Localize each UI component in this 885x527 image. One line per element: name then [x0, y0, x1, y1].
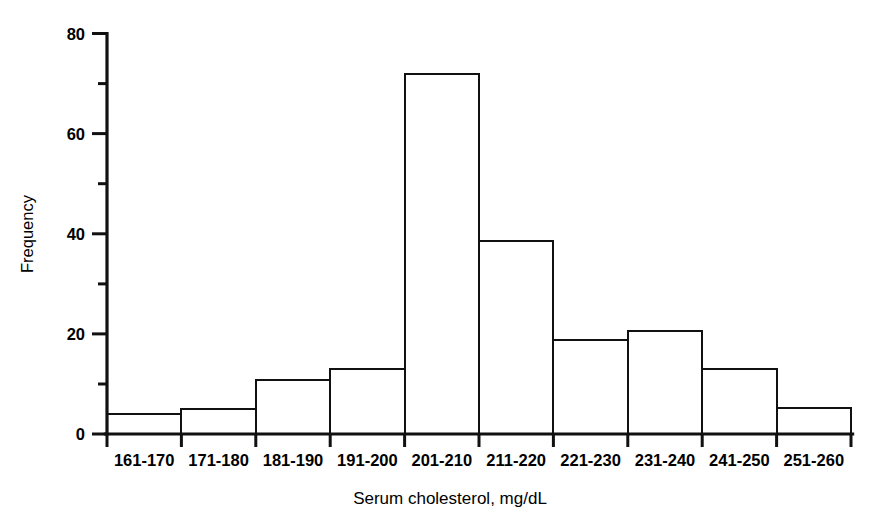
bar-221-230 — [553, 340, 627, 434]
bar-191-200 — [330, 369, 404, 434]
x-tick-label-221-230: 221-230 — [560, 451, 621, 469]
y-major-ticks — [92, 34, 107, 435]
x-axis-title: Serum cholesterol, mg/dL — [353, 489, 547, 508]
y-tick-label-0: 0 — [76, 425, 85, 443]
x-tick-label-171-180: 171-180 — [188, 451, 249, 469]
x-tick-label-161-170: 161-170 — [114, 451, 175, 469]
y-tick-label-80: 80 — [67, 25, 85, 43]
bar-171-180 — [181, 409, 255, 434]
x-tick-label-211-220: 211-220 — [486, 451, 546, 469]
bar-231-240 — [628, 331, 702, 434]
x-ticks — [107, 434, 851, 447]
bar-211-220 — [479, 241, 553, 434]
histogram-chart: 80 60 40 20 0 161-170 171-180 181-190 19… — [0, 0, 885, 527]
y-tick-label-40: 40 — [67, 225, 85, 243]
bar-161-170 — [107, 414, 181, 434]
x-tick-label-201-210: 201-210 — [412, 451, 473, 469]
y-tick-labels: 80 60 40 20 0 — [67, 25, 85, 444]
bars-group — [107, 74, 851, 434]
x-tick-label-181-190: 181-190 — [263, 451, 324, 469]
y-tick-label-60: 60 — [67, 125, 85, 143]
y-axis-title: Frequency — [18, 194, 36, 273]
bar-241-250 — [702, 369, 776, 434]
bar-181-190 — [256, 380, 330, 434]
x-tick-label-191-200: 191-200 — [337, 451, 398, 469]
x-tick-label-251-260: 251-260 — [784, 451, 845, 469]
histogram-figure: 80 60 40 20 0 161-170 171-180 181-190 19… — [0, 0, 885, 527]
y-tick-label-20: 20 — [67, 325, 85, 343]
x-tick-label-231-240: 231-240 — [635, 451, 696, 469]
bar-251-260 — [777, 408, 851, 434]
bar-201-210 — [405, 74, 479, 434]
x-tick-label-241-250: 241-250 — [709, 451, 770, 469]
x-tick-labels: 161-170 171-180 181-190 191-200 201-210 … — [114, 451, 844, 469]
